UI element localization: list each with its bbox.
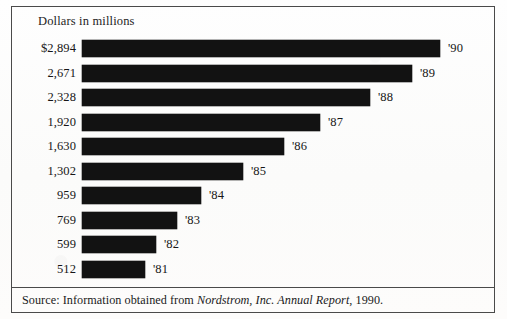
bar-chart-plot: $2,894'902,671'892,328'881,920'871,630'8… <box>0 0 507 319</box>
bar-value-label: 2,328 <box>0 89 76 106</box>
bar-category-label: '85 <box>251 163 266 180</box>
source-note: Source: Information obtained from Nordst… <box>22 293 383 308</box>
bar-category-label: '89 <box>420 65 435 82</box>
bar-category-label: '90 <box>448 40 463 57</box>
source-prefix: Source: Information obtained from <box>22 293 197 307</box>
footer-divider <box>12 287 494 288</box>
bar <box>82 261 145 278</box>
bar <box>82 187 201 204</box>
source-publication: Nordstrom, Inc. Annual Report <box>197 293 349 307</box>
bar <box>82 212 177 229</box>
bar <box>82 114 320 131</box>
bar-value-label: 1,630 <box>0 138 76 155</box>
bar-row: 769'83 <box>0 212 507 229</box>
bar <box>82 236 156 253</box>
bar-value-label: 1,302 <box>0 163 76 180</box>
chart-page: Dollars in millions $2,894'902,671'892,3… <box>0 0 507 319</box>
bar-category-label: '82 <box>164 236 179 253</box>
bar <box>82 40 440 57</box>
bar-row: 1,302'85 <box>0 163 507 180</box>
bar-category-label: '84 <box>209 187 224 204</box>
bar-row: 2,671'89 <box>0 65 507 82</box>
bar-category-label: '86 <box>292 138 307 155</box>
bar-row: 1,920'87 <box>0 114 507 131</box>
bar-category-label: '87 <box>328 114 343 131</box>
bar-row: 959'84 <box>0 187 507 204</box>
source-suffix: , 1990. <box>349 293 383 307</box>
bar-row: 2,328'88 <box>0 89 507 106</box>
bar <box>82 138 284 155</box>
bar-value-label: $2,894 <box>0 40 76 57</box>
bar-category-label: '81 <box>153 261 168 278</box>
bar-value-label: 769 <box>0 212 76 229</box>
bar-value-label: 2,671 <box>0 65 76 82</box>
bar-row: 599'82 <box>0 236 507 253</box>
bar-value-label: 959 <box>0 187 76 204</box>
bar-row: $2,894'90 <box>0 40 507 57</box>
bar-category-label: '88 <box>378 89 393 106</box>
bar <box>82 65 412 82</box>
bar-value-label: 512 <box>0 261 76 278</box>
bar-category-label: '83 <box>185 212 200 229</box>
bar-value-label: 599 <box>0 236 76 253</box>
bar <box>82 89 370 106</box>
bar-row: 512'81 <box>0 261 507 278</box>
bar-row: 1,630'86 <box>0 138 507 155</box>
bar-value-label: 1,920 <box>0 114 76 131</box>
bar <box>82 163 243 180</box>
